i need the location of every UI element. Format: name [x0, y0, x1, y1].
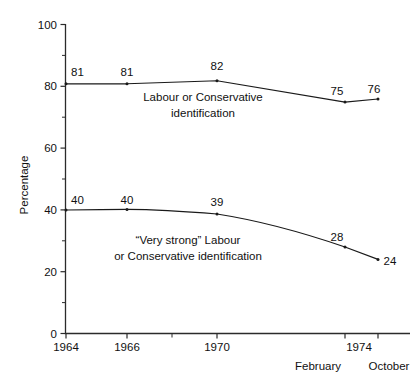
x-ticks	[66, 334, 378, 339]
upper-annotation-line-2: identification	[171, 107, 235, 119]
series-2-label-1974-feb: 28	[331, 231, 344, 243]
series-1-label-1974-oct: 76	[368, 83, 381, 95]
x-sublabel-february: February	[295, 360, 341, 372]
lower-annotation-line-1: “Very strong” Labour	[136, 234, 241, 246]
series-2-label-1974-oct: 24	[384, 255, 397, 267]
series-1-point-1970	[216, 79, 219, 82]
x-tick-label-1974: 1974	[346, 341, 372, 353]
series-2-point-1966	[126, 208, 129, 211]
series-1-point-1966	[126, 82, 129, 85]
y-tick-label-80: 80	[44, 80, 57, 92]
series-2-label-1966: 40	[121, 194, 134, 206]
series-1-label-1970: 82	[211, 60, 224, 72]
axes-group	[61, 24, 411, 339]
x-tick-label-1966: 1966	[114, 341, 140, 353]
upper-series-annotation: Labour or Conservative identification	[143, 91, 263, 119]
y-tick-label-100: 100	[38, 19, 57, 31]
y-tick-label-20: 20	[44, 266, 57, 278]
series-1-label-1966: 81	[121, 66, 134, 78]
series-1-point-1964	[65, 82, 68, 85]
series-2-label-1964: 40	[71, 194, 84, 206]
line-chart-canvas: 100 80 60 40 20 0 Percentage 1964 1966 1…	[0, 0, 418, 390]
series-2-point-1964	[65, 209, 68, 212]
x-tick-label-1970: 1970	[204, 341, 230, 353]
lower-annotation-line-2: or Conservative identification	[114, 250, 262, 262]
y-tick-label-0: 0	[51, 328, 57, 340]
lower-series-annotation: “Very strong” Labour or Conservative ide…	[114, 234, 262, 262]
series-2-point-1970	[216, 213, 219, 216]
series-2-label-1970: 39	[211, 196, 224, 208]
series-1-label-1974-feb: 75	[331, 85, 344, 97]
y-tick-labels: 100 80 60 40 20 0	[38, 19, 57, 340]
axis-lines	[66, 24, 411, 334]
upper-annotation-line-1: Labour or Conservative	[143, 91, 263, 103]
x-tick-label-1964: 1964	[53, 341, 79, 353]
x-sublabel-october: October	[369, 360, 410, 372]
y-axis-title: Percentage	[18, 156, 30, 215]
series-1-point-1974-oct	[377, 98, 380, 101]
y-tick-label-60: 60	[44, 142, 57, 154]
series-1-label-1964: 81	[71, 66, 84, 78]
series-2-point-1974-oct	[377, 258, 380, 261]
x-tick-labels: 1964 1966 1970 1974 February October	[53, 341, 409, 372]
series-1-point-1974-feb	[344, 101, 347, 104]
chart-figure: 100 80 60 40 20 0 Percentage 1964 1966 1…	[0, 0, 418, 390]
y-tick-label-40: 40	[44, 204, 57, 216]
series-2-point-1974-feb	[344, 246, 347, 249]
